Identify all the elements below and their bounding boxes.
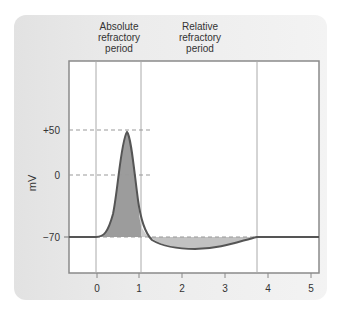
y-label-minus70: −70 <box>43 232 60 243</box>
x-label-1: 1 <box>136 283 142 294</box>
y-axis-title: mV <box>26 174 38 191</box>
x-label-4: 4 <box>265 283 271 294</box>
action-potential-chart: +50 0 −70 mV 0 1 2 3 4 5 <box>0 0 339 312</box>
x-label-5: 5 <box>308 283 314 294</box>
x-label-2: 2 <box>179 283 185 294</box>
y-label-plus50: +50 <box>43 125 60 136</box>
x-label-0: 0 <box>94 283 100 294</box>
y-label-0: 0 <box>54 170 60 181</box>
x-label-3: 3 <box>222 283 228 294</box>
